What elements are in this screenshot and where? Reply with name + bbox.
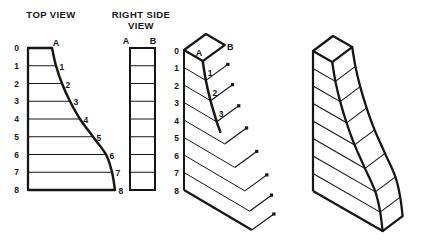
final-front-face-division [313,156,375,192]
top-view-curve-point-label: 4 [84,115,89,125]
final-curved-face-division [355,130,375,145]
iso-level-label: 5 [174,133,179,143]
iso-curve-point-label: 3 [219,109,224,119]
iso-width-offset-line [184,155,245,191]
final-bottom-front-edge [313,191,383,231]
iso-corner-a-label: A [196,48,203,58]
iso-depth-offset-line [245,175,267,191]
final-top-face [313,36,352,62]
iso-plotted-point-dot [226,63,229,66]
isometric-curve-plotting-diagram: TOP VIEW RIGHT SIDE VIEW 012345678123456… [0,0,424,248]
top-view-level-label: 5 [14,132,19,142]
top-view-level-label: 7 [14,167,19,177]
top-view-curve-point-label: 8 [119,186,124,196]
iso-width-offset-line [184,68,206,81]
iso-curve-point-label: 1 [208,68,213,78]
side-view-figure: AB [123,36,157,190]
iso-top-face [184,34,225,61]
iso-plotted-point-dot [265,173,268,176]
top-view-level-label: 2 [14,79,19,89]
top-view-level-label: 8 [14,185,19,195]
final-curved-face-division [365,153,385,168]
iso-plotted-point-dot [272,212,275,215]
final-curved-face-division [380,197,400,212]
final-curved-face-division [375,177,395,192]
top-view-curve-point-label: 7 [116,168,121,178]
iso-construction-figure: 012345678123AB [174,34,275,230]
iso-level-label: 7 [174,168,179,178]
top-view-figure: 01234567812345678A [14,38,123,197]
top-view-level-label: 3 [14,96,19,106]
iso-plotted-point-dot [270,194,273,197]
iso-level-label: 3 [174,98,179,108]
top-view-curve-point-label: 2 [66,80,71,90]
iso-curve-point-label: 2 [213,88,218,98]
iso-level-label: 2 [174,81,179,91]
top-view-curve-point-label: 3 [74,97,79,107]
top-view-level-label: 0 [14,43,19,53]
final-curved-face-division [335,66,355,81]
iso-depth-offset-line [250,195,272,211]
iso-level-label: 1 [174,63,179,73]
top-view-curve-point-label: 1 [60,62,65,72]
iso-corner-b-label: B [227,42,234,52]
top-view-level-label: 1 [14,61,19,71]
top-view-corner-a-label: A [53,38,60,48]
final-curved-face-division [340,87,360,102]
iso-depth-offset-line [235,151,257,167]
final-isometric-figure [313,36,403,231]
iso-plotted-point-dot [231,83,234,86]
top-view-curve-point-label: 5 [97,133,102,143]
iso-level-label: 8 [174,186,179,196]
iso-level-label: 0 [174,46,179,56]
final-curved-face-division [347,108,367,123]
iso-depth-offset-line [225,128,247,144]
iso-plotted-point-dot [245,126,248,129]
side-view-corner-b-label: B [150,36,157,46]
diagram-canvas: 01234567812345678AAB012345678123AB [0,0,424,248]
iso-plotted-point-dot [237,104,240,107]
top-view-level-label: 4 [14,114,19,124]
final-front-face-division [313,69,335,82]
iso-width-offset-line [184,173,250,212]
iso-depth-offset-line [252,214,274,230]
iso-width-offset-line [184,190,252,230]
top-view-curve-point-label: 6 [110,151,115,161]
top-view-level-label: 6 [14,150,19,160]
iso-level-label: 6 [174,151,179,161]
final-bottom-right-edge [383,216,403,231]
side-view-corner-a-label: A [123,36,130,46]
iso-plotted-point-dot [255,150,258,153]
iso-level-label: 4 [174,116,179,126]
